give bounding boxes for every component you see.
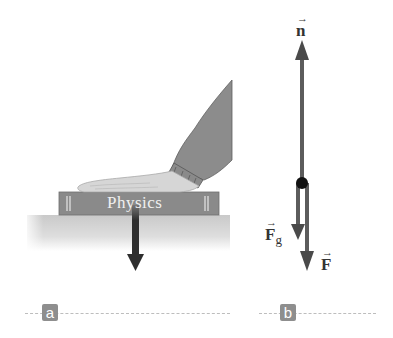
particle-dot xyxy=(296,177,308,189)
vector-arrow-icon: → xyxy=(297,13,308,24)
gravity-force-label: → Fg xyxy=(265,226,282,246)
normal-force-arrow xyxy=(295,40,309,183)
panel-a-tag: a xyxy=(42,304,58,321)
free-body-diagram xyxy=(0,0,393,338)
vector-arrow-icon: → xyxy=(322,247,333,258)
panel-b-tag: b xyxy=(280,304,296,321)
vector-arrow-icon: → xyxy=(266,217,277,228)
applied-force-label: → F xyxy=(321,256,331,273)
panel-b-rule xyxy=(259,313,376,314)
gravity-force-arrow xyxy=(291,183,305,240)
normal-force-label: → n xyxy=(296,22,305,39)
